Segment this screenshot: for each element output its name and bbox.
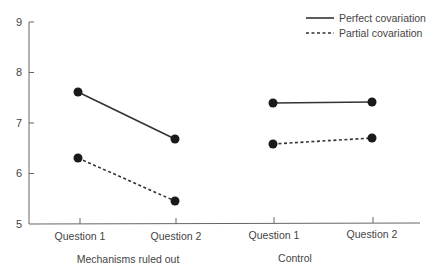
point-perfect-mro-q2: [171, 135, 180, 144]
point-perfect-mro-q1: [74, 88, 83, 97]
y-tick-8: 8: [16, 66, 22, 78]
chart-canvas: 5 6 7 8 9 Question 1 Question 2 Question…: [0, 0, 434, 277]
y-tick-5: 5: [16, 218, 22, 230]
legend: Perfect covariation Partial covariation: [306, 12, 426, 39]
x-label-mro-q2: Question 2: [151, 230, 202, 242]
x-label-control-q1: Question 1: [249, 229, 300, 241]
legend-partial-covariation: Partial covariation: [339, 27, 423, 39]
x-label-mro-q1: Question 1: [55, 230, 106, 242]
series-perfect-covariation: [74, 88, 377, 144]
point-perfect-control-q2: [368, 98, 377, 107]
point-partial-control-q2: [368, 134, 377, 143]
group-label-control: Control: [278, 252, 312, 264]
axes: [29, 22, 420, 224]
y-tick-labels: 5 6 7 8 9: [16, 16, 22, 230]
point-partial-mro-q2: [171, 197, 180, 206]
y-tick-9: 9: [16, 16, 22, 28]
legend-perfect-covariation: Perfect covariation: [339, 12, 426, 24]
y-tick-6: 6: [16, 167, 22, 179]
x-label-control-q2: Question 2: [347, 228, 398, 240]
point-partial-mro-q1: [74, 154, 83, 163]
group-label-mechanisms: Mechanisms ruled out: [77, 253, 180, 265]
series-partial-covariation: [74, 134, 377, 206]
x-axis: [29, 223, 420, 224]
point-perfect-control-q1: [269, 99, 278, 108]
x-tick-labels: Question 1 Question 2 Question 1 Questio…: [55, 228, 398, 265]
y-tick-7: 7: [16, 117, 22, 129]
point-partial-control-q1: [269, 140, 278, 149]
